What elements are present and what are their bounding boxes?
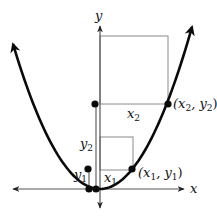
x-axis-label: x [190,181,198,196]
dot-y1-height-dot [84,165,91,172]
point-x2-y2-label: (x2, y2) [173,96,217,113]
dot-y2-height-dot [91,100,98,107]
y-axis-label: y [94,8,103,23]
point-x1-y1-label: (x1, y1) [138,165,183,182]
squares-group [100,36,168,170]
point-x2-y2-dot [164,100,171,107]
dot-y2-base-dot [92,185,99,192]
dot-y1-base-dot [85,185,92,192]
parabola-diagram: (x1, y1)(x2, y2)x2y2x1y1 x y [0,0,217,218]
label-y2: y2 [79,136,93,153]
point-x1-y1-dot [128,165,135,172]
label-x2: x2 [127,106,140,123]
square-x1 [100,137,133,170]
square-x2 [100,36,168,104]
labels-group: (x1, y1)(x2, y2)x2y2x1y1 [73,96,217,187]
label-x1: x1 [104,170,117,187]
